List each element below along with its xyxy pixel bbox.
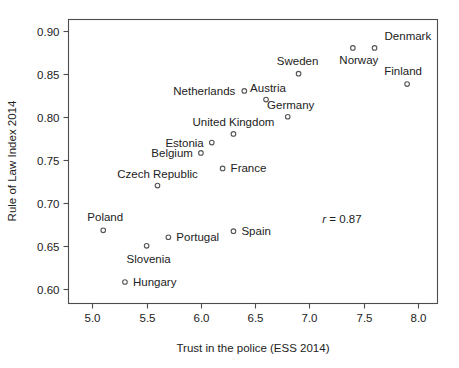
y-tick-label-0.85: 0.85 bbox=[37, 69, 59, 81]
chart-canvas: 5.05.56.06.57.07.58.0 0.600.650.700.750.… bbox=[0, 0, 459, 368]
data-label-germany: Germany bbox=[267, 99, 315, 111]
data-label-portugal: Portugal bbox=[176, 231, 219, 243]
data-label-united-kingdom: United Kingdom bbox=[193, 116, 275, 128]
y-axis-title: Rule of Law Index 2014 bbox=[6, 100, 18, 221]
scatter-plot-figure: 5.05.56.06.57.07.58.0 0.600.650.700.750.… bbox=[0, 0, 459, 368]
x-tick-label-5.5: 5.5 bbox=[140, 312, 156, 324]
y-tick-label-0.65: 0.65 bbox=[37, 241, 59, 253]
x-axis-title: Trust in the police (ESS 2014) bbox=[177, 342, 330, 354]
data-label-belgium: Belgium bbox=[151, 147, 193, 159]
x-tick-label-5.0: 5.0 bbox=[85, 312, 101, 324]
data-label-spain: Spain bbox=[241, 225, 270, 237]
y-tick-label-0.80: 0.80 bbox=[37, 112, 59, 124]
y-tick-label-0.70: 0.70 bbox=[37, 198, 59, 210]
data-label-sweden: Sweden bbox=[277, 55, 319, 67]
data-label-slovenia: Slovenia bbox=[127, 253, 172, 265]
data-label-norway: Norway bbox=[339, 54, 378, 66]
x-tick-label-6.5: 6.5 bbox=[248, 312, 264, 324]
y-tick-label-0.75: 0.75 bbox=[37, 155, 59, 167]
data-label-netherlands: Netherlands bbox=[173, 85, 235, 97]
data-label-hungary: Hungary bbox=[133, 276, 177, 288]
data-label-austria: Austria bbox=[250, 82, 286, 94]
correlation-annotation: r = 0.87 bbox=[322, 213, 361, 225]
data-label-finland: Finland bbox=[384, 65, 422, 77]
x-tick-label-7.5: 7.5 bbox=[357, 312, 373, 324]
data-label-denmark: Denmark bbox=[385, 30, 432, 42]
y-tick-label-0.90: 0.90 bbox=[37, 26, 59, 38]
annotation-value: = 0.87 bbox=[326, 213, 362, 225]
data-label-france: France bbox=[231, 162, 267, 174]
annotation-correlation-0: r = 0.87 bbox=[322, 213, 361, 225]
data-label-poland: Poland bbox=[87, 211, 123, 223]
x-tick-label-7.0: 7.0 bbox=[302, 312, 318, 324]
data-label-czech-republic: Czech Republic bbox=[117, 168, 198, 180]
x-tick-label-8.0: 8.0 bbox=[411, 312, 427, 324]
y-tick-label-0.60: 0.60 bbox=[37, 284, 59, 296]
x-tick-label-6.0: 6.0 bbox=[194, 312, 210, 324]
